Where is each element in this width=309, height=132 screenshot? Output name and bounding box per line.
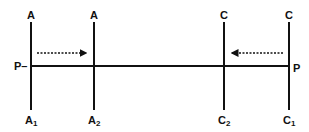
label-p-left: P– xyxy=(14,60,27,72)
label-top-c2: C xyxy=(220,9,228,21)
label-bottom-a1: A1 xyxy=(25,114,38,128)
label-top-a2: A xyxy=(90,9,98,21)
label-bottom-c1: C1 xyxy=(283,114,296,128)
diagram-canvas: A A C C A1 A2 C2 C1 P– P xyxy=(0,0,309,132)
label-p-right: P xyxy=(293,62,300,74)
label-top-a1: A xyxy=(27,9,35,21)
label-bottom-c2: C2 xyxy=(218,114,231,128)
label-top-c1: C xyxy=(285,9,293,21)
label-bottom-a2: A2 xyxy=(88,114,101,128)
